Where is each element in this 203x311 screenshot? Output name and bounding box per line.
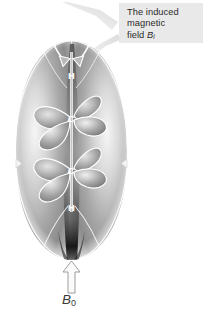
b0-symbol: B (62, 292, 71, 307)
callout-line-2: magnetic (127, 18, 165, 28)
atom-label-hydrogen-top: H (65, 70, 79, 81)
induced-field-callout-text: The induced magnetic field Bi (127, 7, 203, 42)
callout-field-subscript: i (153, 33, 155, 40)
induced-magnetic-field-diagram (0, 0, 203, 311)
figure-canvas: H C C H The induced magnetic field Bi B0 (0, 0, 203, 311)
callout-line-3-prefix: field (127, 30, 147, 40)
atom-label-carbon-lower: C (65, 165, 79, 176)
applied-field-arrow (63, 261, 80, 293)
callout-line-1: The induced (127, 7, 179, 17)
atom-label-hydrogen-bottom: H (65, 202, 79, 213)
b0-subscript: 0 (71, 298, 76, 308)
applied-field-label: B0 (62, 292, 76, 308)
atom-label-carbon-upper: C (65, 113, 79, 124)
